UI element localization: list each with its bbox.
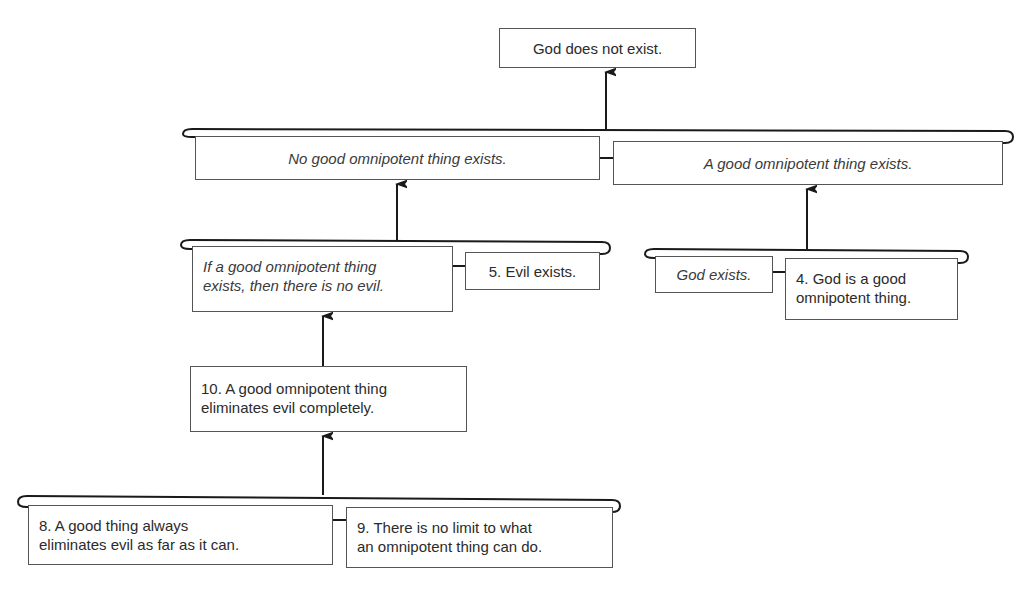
premise-5-evil-exists: 5. Evil exists. — [465, 252, 600, 290]
premise-line-2: omnipotent thing. — [796, 288, 947, 307]
conclusion-box: God does not exist. — [499, 28, 696, 68]
premise-line-1: 4. God is a good — [796, 269, 947, 288]
premise-text: God exists. — [676, 265, 751, 284]
premise-line-1: 8. A good thing always — [39, 516, 322, 535]
premise-10-eliminates-evil: 10. A good omnipotent thing eliminates e… — [190, 366, 467, 432]
premise-line-2: eliminates evil completely. — [201, 398, 456, 417]
premise-4-god-good-omnipotent: 4. God is a good omnipotent thing. — [785, 258, 958, 320]
premise-a-good-omnipotent: A good omnipotent thing exists. — [613, 141, 1003, 185]
premise-line-1: 9. There is no limit to what — [357, 518, 602, 537]
conclusion-text: God does not exist. — [533, 39, 662, 58]
premise-line-1: If a good omnipotent thing — [203, 257, 442, 276]
premise-no-good-omnipotent: No good omnipotent thing exists. — [195, 136, 600, 180]
premise-if-good-omnipotent: If a good omnipotent thing exists, then … — [192, 246, 453, 312]
premise-text: A good omnipotent thing exists. — [704, 154, 913, 173]
premise-line-2: eliminates evil as far as it can. — [39, 535, 322, 554]
premise-text: No good omnipotent thing exists. — [288, 149, 506, 168]
premise-line-1: 10. A good omnipotent thing — [201, 379, 456, 398]
premise-8-good-thing: 8. A good thing always eliminates evil a… — [28, 505, 333, 565]
argument-map-diagram: God does not exist. No good omnipotent t… — [0, 0, 1029, 595]
premise-text: 5. Evil exists. — [489, 262, 577, 281]
premise-line-2: an omnipotent thing can do. — [357, 537, 602, 556]
premise-god-exists: God exists. — [655, 256, 773, 293]
premise-line-2: exists, then there is no evil. — [203, 276, 442, 295]
premise-9-no-limit: 9. There is no limit to what an omnipote… — [346, 507, 613, 568]
